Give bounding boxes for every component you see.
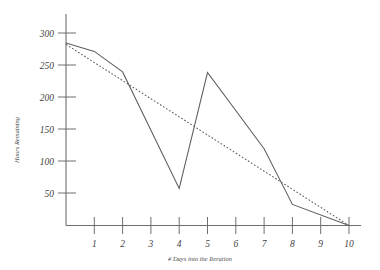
y-tick-label-300: 300 — [39, 29, 55, 39]
x-tick-label-6: 6 — [233, 239, 238, 249]
y-axis-ticks — [58, 33, 76, 193]
y-tick-label-150: 150 — [40, 125, 55, 135]
y-tick-label-200: 200 — [40, 93, 55, 103]
y-tick-label-50: 50 — [45, 189, 55, 199]
y-axis-tick-labels: 300 250 200 150 100 50 — [39, 29, 55, 199]
x-axis-title: # Days into the Iteration — [168, 255, 232, 262]
x-tick-label-2: 2 — [120, 239, 125, 249]
x-tick-label-3: 3 — [148, 239, 154, 249]
x-tick-label-9: 9 — [318, 239, 323, 249]
x-tick-label-8: 8 — [290, 239, 295, 249]
x-tick-label-5: 5 — [205, 239, 210, 249]
chart-canvas: 300 250 200 150 100 50 1 2 3 4 5 — [0, 0, 380, 270]
y-tick-label-250: 250 — [40, 61, 55, 71]
x-axis-tick-labels: 1 2 3 4 5 6 7 8 9 10 — [92, 239, 354, 249]
burndown-chart: 300 250 200 150 100 50 1 2 3 4 5 — [0, 0, 380, 270]
y-tick-label-100: 100 — [40, 157, 55, 167]
x-tick-label-1: 1 — [92, 239, 97, 249]
x-tick-label-7: 7 — [262, 239, 268, 249]
y-axis-title: Hours Remaining — [13, 116, 20, 164]
series-line-ideal — [66, 44, 349, 225]
x-tick-label-10: 10 — [344, 239, 354, 249]
x-tick-label-4: 4 — [177, 239, 182, 249]
